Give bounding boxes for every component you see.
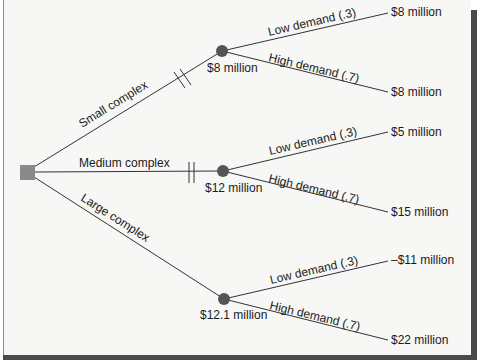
decision-tree: Small complex Medium complex Large compl… <box>0 0 477 360</box>
outcome-label-large-high: High demand (.7) <box>268 298 361 333</box>
payoff-small-high: $8 million <box>391 85 442 99</box>
outcome-label-medium-low: Low demand (.3) <box>268 124 359 158</box>
payoff-large-low: –$11 million <box>391 253 454 267</box>
chance-node-large <box>218 293 230 305</box>
branch-line-medium <box>34 171 223 172</box>
branch-label-large: Large complex <box>78 191 152 245</box>
expected-value-small: $8 million <box>207 61 258 75</box>
payoff-small-low: $8 million <box>391 5 442 19</box>
payoff-medium-low: $5 million <box>391 125 442 139</box>
prune-mark-medium <box>189 162 194 183</box>
payoff-large-high: $22 million <box>391 333 448 347</box>
outcome-label-small-low: Low demand (.3) <box>267 5 358 39</box>
branch-label-medium: Medium complex <box>79 156 170 170</box>
outcome-label-large-low: Low demand (.3) <box>269 253 360 287</box>
branch-line-small <box>34 51 222 167</box>
payoff-medium-high: $15 million <box>391 205 448 219</box>
branch-label-small: Small complex <box>76 78 150 131</box>
decision-node-square <box>20 165 35 180</box>
branch-line-large <box>34 177 224 299</box>
chance-node-medium <box>217 165 229 177</box>
chance-node-small <box>216 45 228 57</box>
outcome-label-small-high: High demand (.7) <box>267 50 360 85</box>
expected-value-medium: $12 million <box>205 181 262 195</box>
expected-value-large: $12.1 million <box>200 308 267 322</box>
outcome-label-medium-high: High demand (.7) <box>267 171 360 206</box>
